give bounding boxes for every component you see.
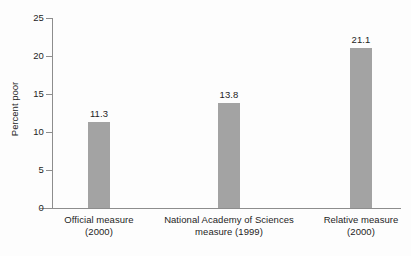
- x-axis-label-official: Official measure (2000): [49, 214, 149, 237]
- bar-chart: Percent poor 25 20 15 10 5 0 11.3 13.8 2…: [0, 0, 411, 256]
- y-tick-label-25: 25: [18, 13, 44, 23]
- x-axis-line: [40, 208, 401, 209]
- bar-value-label-relative: 21.1: [331, 35, 391, 45]
- x-axis-label-relative-line1: Relative measure: [311, 214, 411, 226]
- x-axis-label-official-line1: Official measure: [49, 214, 149, 226]
- y-tick-label-10: 10: [18, 127, 44, 137]
- y-tick-mark-15: [46, 94, 52, 95]
- x-axis-label-relative-line2: (2000): [311, 226, 411, 238]
- bar-value-label-nas: 13.8: [199, 90, 259, 100]
- y-tick-label-20: 20: [18, 51, 44, 61]
- y-tick-label-5: 5: [18, 165, 44, 175]
- y-axis-line: [52, 18, 53, 209]
- chart-page: Percent poor 25 20 15 10 5 0 11.3 13.8 2…: [0, 0, 411, 256]
- y-tick-mark-10: [46, 132, 52, 133]
- x-axis-label-relative: Relative measure (2000): [311, 214, 411, 237]
- y-tick-label-15: 15: [18, 89, 44, 99]
- x-axis-label-nas-line2: measure (1999): [154, 226, 304, 238]
- x-axis-label-nas-line1: National Academy of Sciences: [154, 214, 304, 226]
- y-tick-label-0: 0: [18, 203, 44, 213]
- x-axis-label-nas: National Academy of Sciences measure (19…: [154, 214, 304, 237]
- y-tick-mark-20: [46, 56, 52, 57]
- y-tick-mark-0: [46, 208, 52, 209]
- y-axis-title: Percent poor: [10, 61, 20, 157]
- bar-official-measure: [88, 122, 110, 208]
- bar-value-label-official: 11.3: [69, 109, 129, 119]
- bar-relative-measure: [350, 48, 372, 208]
- x-axis-label-official-line2: (2000): [49, 226, 149, 238]
- y-tick-mark-25: [46, 18, 52, 19]
- y-tick-mark-5: [46, 170, 52, 171]
- bar-nas-measure: [218, 103, 240, 208]
